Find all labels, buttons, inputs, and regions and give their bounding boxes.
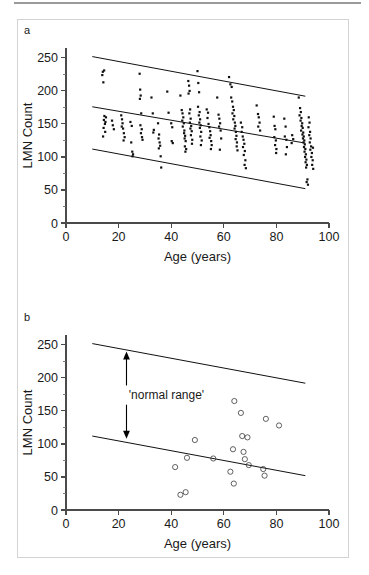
data-point	[235, 135, 237, 137]
data-point	[284, 135, 286, 137]
data-point	[141, 139, 143, 141]
y-tick-label: 50	[44, 470, 58, 484]
data-point	[131, 155, 133, 157]
data-points-group	[173, 398, 282, 497]
y-tick-label: 100	[37, 437, 58, 451]
data-point	[112, 124, 114, 126]
data-point	[300, 111, 302, 113]
data-point	[171, 126, 173, 128]
data-point	[300, 117, 302, 119]
data-point	[181, 109, 183, 111]
data-point	[306, 164, 308, 166]
data-point	[307, 184, 309, 186]
data-point	[218, 118, 220, 120]
data-point	[141, 128, 143, 130]
data-point	[275, 139, 277, 141]
data-point	[210, 148, 212, 150]
data-point	[233, 115, 235, 117]
data-point	[242, 135, 244, 137]
data-point	[308, 122, 310, 124]
data-point	[236, 145, 238, 147]
y-tick-label: 250	[37, 338, 58, 352]
data-point	[172, 142, 174, 144]
data-point	[274, 128, 276, 130]
data-point	[303, 151, 305, 153]
panel-letter: a	[24, 24, 31, 36]
data-point	[309, 141, 311, 143]
x-tick-label: 80	[269, 517, 283, 531]
data-point	[200, 124, 202, 126]
x-tick-label: 0	[63, 230, 70, 244]
data-point	[240, 433, 245, 438]
data-point	[301, 125, 303, 127]
data-point	[122, 127, 124, 129]
data-point	[238, 410, 243, 415]
data-point	[120, 114, 122, 116]
data-point	[122, 139, 124, 141]
data-point	[241, 449, 246, 454]
data-point	[240, 122, 242, 124]
data-point	[231, 481, 236, 486]
y-tick-label: 250	[37, 51, 58, 65]
data-point	[236, 141, 238, 143]
x-tick-label: 100	[319, 230, 340, 244]
data-point	[299, 120, 301, 122]
data-point	[300, 129, 302, 131]
data-point	[210, 134, 212, 136]
data-point	[102, 81, 104, 83]
data-point	[217, 114, 219, 116]
data-point	[236, 149, 238, 151]
data-point	[160, 166, 162, 168]
panel-letter: b	[24, 311, 30, 323]
data-point	[173, 464, 178, 469]
data-point	[188, 112, 190, 114]
data-point	[198, 114, 200, 116]
y-tick-label: 200	[37, 371, 58, 385]
data-point	[309, 149, 311, 151]
data-point	[241, 126, 243, 128]
data-point	[201, 139, 203, 141]
data-point	[230, 447, 235, 452]
data-point	[235, 138, 237, 140]
data-point	[101, 74, 103, 76]
data-point	[130, 141, 132, 143]
figure-root: a050100150200250020406080100Age (years)L…	[0, 0, 369, 575]
data-point	[257, 125, 259, 127]
data-point	[185, 148, 187, 150]
data-point	[302, 127, 304, 129]
data-point	[157, 122, 159, 124]
data-point	[189, 108, 191, 110]
data-point	[307, 126, 309, 128]
data-point	[131, 151, 133, 153]
data-point	[206, 108, 208, 110]
data-point	[305, 159, 307, 161]
data-point	[182, 116, 184, 118]
data-point	[304, 161, 306, 163]
x-tick-label: 80	[269, 230, 283, 244]
data-point	[301, 133, 303, 135]
data-point	[187, 92, 189, 94]
data-point	[303, 139, 305, 141]
data-point	[285, 153, 287, 155]
y-tick-label: 200	[37, 84, 58, 98]
data-point	[208, 137, 210, 139]
data-point	[182, 125, 184, 127]
y-tick-label: 0	[51, 504, 58, 518]
data-point	[229, 83, 231, 85]
data-point	[234, 125, 236, 127]
y-axis-title: LMN Count	[20, 389, 35, 455]
data-point	[211, 144, 213, 146]
y-tick-label: 150	[37, 404, 58, 418]
data-point	[159, 141, 161, 143]
data-point	[121, 125, 123, 127]
data-point	[261, 466, 266, 471]
data-point	[275, 152, 277, 154]
data-point	[141, 136, 143, 138]
data-point	[303, 135, 305, 137]
data-point	[231, 112, 233, 114]
data-point	[242, 139, 244, 141]
data-point	[308, 116, 310, 118]
data-point	[220, 129, 222, 131]
data-point	[309, 131, 311, 133]
data-point	[184, 455, 189, 460]
